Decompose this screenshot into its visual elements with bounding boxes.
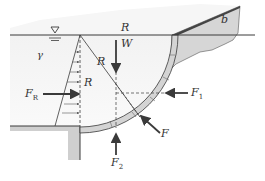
- label-gamma: γ: [37, 50, 43, 60]
- label-f2: F2: [111, 157, 123, 171]
- f-arrow: [141, 116, 160, 133]
- label-width-b: b: [221, 14, 228, 25]
- label-radius-mid: R: [84, 77, 92, 88]
- label-radius-top: R: [121, 22, 129, 33]
- gate-diagram: [0, 0, 265, 181]
- label-weight: W: [121, 38, 132, 49]
- ground-ledge: [10, 126, 80, 160]
- label-fr: FR: [25, 88, 38, 102]
- label-f1: F1: [191, 87, 203, 101]
- label-f: F: [161, 128, 169, 139]
- label-radius-diag: R: [97, 56, 105, 67]
